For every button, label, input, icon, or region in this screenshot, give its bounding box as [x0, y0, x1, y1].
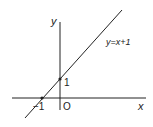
graph-canvas: y x O 1 −1 y=x+1 — [0, 0, 153, 127]
equation-label: y=x+1 — [105, 37, 131, 47]
point-y-intercept — [58, 77, 61, 80]
x-intercept-label: −1 — [33, 101, 45, 112]
x-axis-label: x — [137, 100, 144, 112]
y-axis-label: y — [50, 15, 58, 27]
point-x-intercept — [40, 96, 43, 99]
origin-label: O — [63, 101, 71, 112]
y-intercept-label: 1 — [64, 77, 70, 88]
